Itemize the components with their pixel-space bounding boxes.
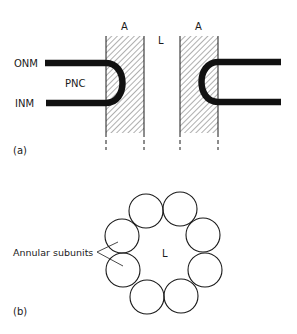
label-annulus-right: A — [195, 21, 202, 32]
label-pnc: PNC — [65, 78, 86, 89]
leader-line-upper — [97, 242, 118, 252]
label-annulus-left: A — [121, 21, 128, 32]
panel-a: ONM INM PNC A A L (a) — [13, 21, 281, 156]
leader-line-lower — [97, 252, 123, 266]
label-annular-subunits: Annular subunits — [13, 247, 93, 258]
annular-subunit-1 — [129, 194, 163, 228]
annular-subunit-2 — [163, 192, 197, 226]
label-inm: INM — [15, 98, 34, 109]
annular-subunit-5 — [164, 279, 198, 313]
panel-b-label: (b) — [13, 306, 27, 317]
label-onm: ONM — [14, 58, 38, 69]
panel-b — [97, 192, 222, 314]
annular-subunit-3 — [186, 218, 220, 252]
annular-subunit-7 — [106, 253, 140, 287]
annular-subunit-6 — [130, 280, 164, 314]
annular-subunit-8 — [105, 219, 139, 253]
annular-subunit-4 — [188, 253, 222, 287]
label-lumen-a: L — [158, 35, 164, 46]
panel-a-label: (a) — [13, 145, 27, 156]
label-lumen-b: L — [162, 248, 168, 259]
nuclear-pore-diagram: ONM INM PNC A A L (a) Annular subunits L… — [0, 0, 297, 334]
